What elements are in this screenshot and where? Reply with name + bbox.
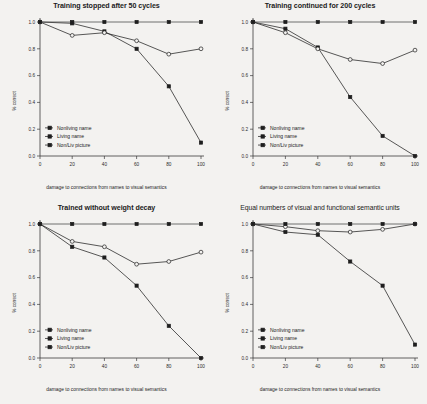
svg-text:0.8: 0.8 xyxy=(28,249,35,254)
svg-text:0.8: 0.8 xyxy=(28,47,35,52)
figure-grid: Training stopped after 50 cycles % corre… xyxy=(0,0,427,404)
legend-label: Nonliving name xyxy=(57,125,92,131)
data-point xyxy=(381,134,384,137)
svg-text:0.0: 0.0 xyxy=(241,154,248,159)
data-point xyxy=(103,222,106,225)
data-point xyxy=(316,233,319,236)
svg-text:0.8: 0.8 xyxy=(241,249,248,254)
svg-text:0.0: 0.0 xyxy=(28,154,35,159)
data-point xyxy=(135,39,139,43)
data-point xyxy=(38,222,41,225)
data-point xyxy=(284,31,288,35)
data-point xyxy=(167,222,170,225)
data-point xyxy=(284,27,287,30)
svg-text:40: 40 xyxy=(102,162,108,167)
legend-label: Nonliving name xyxy=(270,327,305,333)
svg-text:0: 0 xyxy=(252,364,255,369)
legend-marker-icon xyxy=(48,126,51,129)
legend-label: Nonliving name xyxy=(270,125,305,131)
legend-label: Living name xyxy=(270,335,297,341)
data-point xyxy=(413,343,416,346)
svg-text:60: 60 xyxy=(348,364,354,369)
svg-text:0: 0 xyxy=(39,162,42,167)
data-point xyxy=(167,260,171,264)
data-point xyxy=(381,227,385,231)
data-point xyxy=(167,85,170,88)
legend-marker-icon xyxy=(48,135,51,138)
legend-marker-icon xyxy=(48,337,51,340)
legend-marker-icon xyxy=(48,345,51,348)
data-point xyxy=(413,222,416,225)
svg-text:0.6: 0.6 xyxy=(241,73,248,78)
data-point xyxy=(103,31,107,35)
svg-text:80: 80 xyxy=(166,162,172,167)
legend-label: Non/Liv picture xyxy=(270,142,304,148)
svg-text:100: 100 xyxy=(411,364,419,369)
data-point xyxy=(251,20,254,23)
svg-text:0: 0 xyxy=(252,162,255,167)
data-point xyxy=(135,20,138,23)
legend-label: Living name xyxy=(57,133,84,139)
data-point xyxy=(199,47,203,51)
data-point xyxy=(135,222,138,225)
series-line-living-name xyxy=(253,224,415,232)
svg-text:0.6: 0.6 xyxy=(241,275,248,280)
data-point xyxy=(135,262,139,266)
svg-text:100: 100 xyxy=(411,162,419,167)
data-point xyxy=(381,284,384,287)
svg-text:100: 100 xyxy=(197,162,205,167)
data-point xyxy=(349,260,352,263)
svg-text:20: 20 xyxy=(70,162,76,167)
series-line-living-name xyxy=(40,224,201,264)
data-point xyxy=(413,48,417,52)
data-point xyxy=(316,20,319,23)
svg-text:0.2: 0.2 xyxy=(241,127,248,132)
data-point xyxy=(413,20,416,23)
chart-panel-training-stopped-50: Training stopped after 50 cycles % corre… xyxy=(0,0,213,202)
data-point xyxy=(381,222,384,225)
legend-marker-icon xyxy=(261,126,264,129)
legend-label: Non/Liv picture xyxy=(57,142,91,148)
legend-label: Nonliving name xyxy=(57,327,92,333)
svg-text:40: 40 xyxy=(315,364,321,369)
svg-text:0.2: 0.2 xyxy=(241,329,248,334)
data-point xyxy=(71,222,74,225)
svg-text:0.6: 0.6 xyxy=(28,275,35,280)
svg-text:20: 20 xyxy=(283,364,289,369)
data-point xyxy=(413,154,416,157)
chart-panel-no-weight-decay: Trained without weight decay % correct d… xyxy=(0,202,213,404)
svg-text:1.0: 1.0 xyxy=(28,222,35,227)
chart-panel-training-continued-200: Training continued for 200 cycles % corr… xyxy=(213,0,427,202)
svg-text:0.0: 0.0 xyxy=(28,356,35,361)
data-point xyxy=(349,95,352,98)
data-point xyxy=(284,20,287,23)
legend-marker-icon xyxy=(261,345,264,348)
legend-marker-icon xyxy=(261,143,264,146)
svg-text:1.0: 1.0 xyxy=(28,20,35,25)
data-point xyxy=(349,222,352,225)
plot-area: 0.00.20.40.60.81.0020406080100Nonliving … xyxy=(213,0,427,202)
data-point xyxy=(70,34,74,38)
legend-marker-icon xyxy=(48,143,51,146)
data-point xyxy=(199,141,202,144)
data-point xyxy=(71,20,74,23)
data-point xyxy=(348,230,352,234)
data-point xyxy=(199,222,202,225)
plot-area: 0.00.20.40.60.81.0020406080100Nonliving … xyxy=(0,202,213,404)
legend-label: Non/Liv picture xyxy=(270,344,304,350)
data-point xyxy=(199,250,203,254)
legend-label: Living name xyxy=(57,335,84,341)
data-point xyxy=(70,240,74,244)
svg-text:0.2: 0.2 xyxy=(28,329,35,334)
data-point xyxy=(167,20,170,23)
data-point xyxy=(103,245,107,249)
svg-text:20: 20 xyxy=(70,364,76,369)
data-point xyxy=(167,324,170,327)
series-line-living-name xyxy=(253,22,415,64)
svg-text:0.8: 0.8 xyxy=(241,47,248,52)
svg-text:0.2: 0.2 xyxy=(28,127,35,132)
svg-text:0.4: 0.4 xyxy=(241,100,248,105)
series-line-living-name xyxy=(40,22,201,54)
svg-text:80: 80 xyxy=(166,364,172,369)
data-point xyxy=(316,47,320,51)
